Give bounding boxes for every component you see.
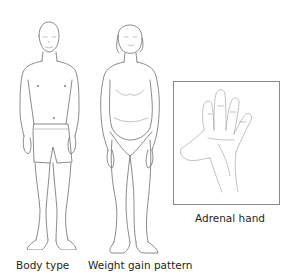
male-body-figure — [6, 10, 86, 250]
hand-palm-icon — [174, 82, 279, 204]
adrenal-hand-label: Adrenal hand — [195, 212, 265, 224]
female-body-figure — [92, 22, 172, 254]
weight-gain-pattern-label: Weight gain pattern — [88, 259, 193, 271]
body-type-label: Body type — [16, 259, 69, 271]
adrenal-hand-frame — [173, 81, 280, 205]
